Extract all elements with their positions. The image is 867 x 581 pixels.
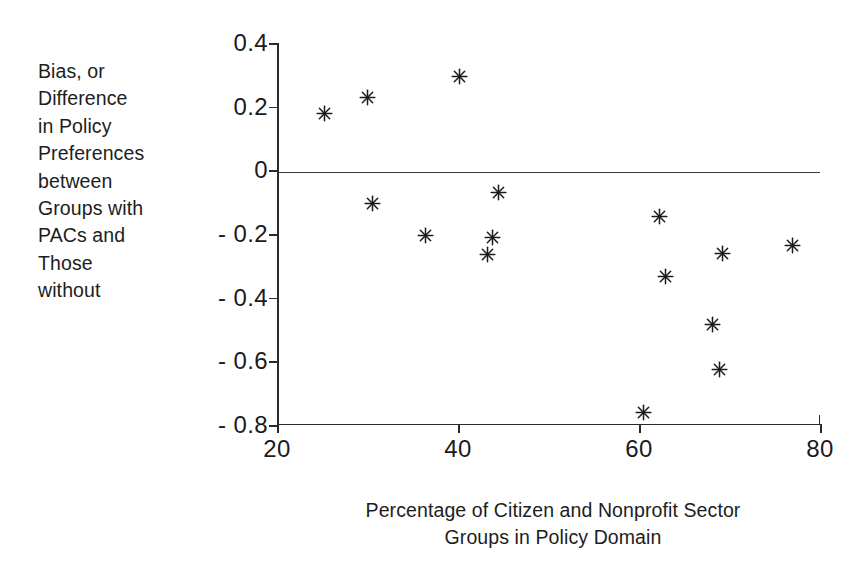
y-axis-tick-label: 0.2 xyxy=(148,93,268,121)
plot-area: 0.40.20- 0.2- 0.4- 0.6- 0.8 20406080 xyxy=(277,43,820,425)
x-axis-tick-label: 40 xyxy=(413,435,503,463)
data-point-marker xyxy=(784,237,801,254)
y-axis-tick xyxy=(269,298,278,300)
y-axis-tick xyxy=(269,361,278,363)
x-axis-tick xyxy=(277,424,279,433)
x-axis-label: Percentage of Citizen and Nonprofit Sect… xyxy=(253,497,853,551)
data-point-marker xyxy=(651,208,668,225)
data-point-marker xyxy=(657,268,674,285)
y-axis-top-cap xyxy=(269,43,278,45)
data-point-marker xyxy=(417,227,434,244)
data-point-marker xyxy=(714,245,731,262)
data-point-marker xyxy=(484,229,501,246)
data-point-marker xyxy=(704,316,721,333)
y-axis-tick xyxy=(269,234,278,236)
x-axis-tick xyxy=(820,424,822,433)
data-point-marker xyxy=(364,195,381,212)
x-axis-tick-label: 20 xyxy=(232,435,322,463)
data-point-marker xyxy=(316,105,333,122)
y-axis-tick-label: - 0.6 xyxy=(148,347,268,375)
data-point-marker xyxy=(359,89,376,106)
zero-reference-line xyxy=(277,172,820,173)
data-point-marker xyxy=(635,404,652,421)
data-point-marker xyxy=(451,68,468,85)
x-axis-tick-label: 80 xyxy=(775,435,865,463)
y-axis-tick-label: - 0.4 xyxy=(148,284,268,312)
y-axis-tick-label: - 0.2 xyxy=(148,220,268,248)
x-axis-line xyxy=(277,424,820,426)
x-axis-tick xyxy=(639,424,641,433)
y-axis-tick-label: 0.4 xyxy=(148,29,268,57)
data-point-marker xyxy=(479,246,496,263)
scatter-plot-figure: Bias, or Difference in Policy Preference… xyxy=(0,0,867,581)
x-axis-tick-label: 60 xyxy=(594,435,684,463)
y-axis-tick xyxy=(269,170,278,172)
x-axis-tick xyxy=(458,424,460,433)
data-point-marker xyxy=(490,184,507,201)
y-axis-tick xyxy=(269,107,278,109)
data-point-marker xyxy=(711,361,728,378)
y-axis-tick-label: 0 xyxy=(148,156,268,184)
